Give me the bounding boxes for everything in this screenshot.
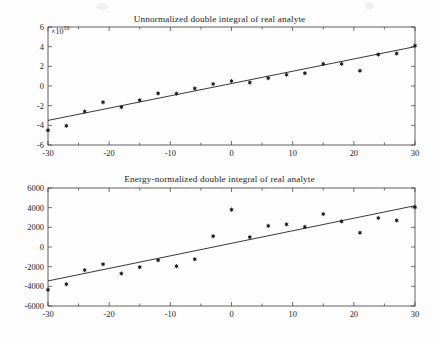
y-tick-label: 6 [40,23,44,32]
y-tick-label: 0 [40,243,44,252]
chart-energy-normalized: Energy-normalized double integral of rea… [0,170,439,342]
x-tick-label: -20 [104,149,115,158]
data-point [395,218,399,222]
x-tick-label: -30 [42,310,53,319]
data-point [193,257,197,261]
data-point [65,282,69,286]
data-point [120,271,124,275]
y-tick-label: -2000 [24,263,44,272]
data-point [248,235,252,239]
data-point [395,51,399,55]
y-tick-label: 2 [40,62,44,71]
y-tick-label: 2000 [27,223,44,232]
x-tick-label: -10 [165,310,176,319]
plot-area-top: 6420-2-4-6-30-20-100102030 [0,6,439,170]
data-point [340,62,344,66]
y-tick-label: 6000 [27,184,44,193]
data-point [376,52,380,56]
data-point [211,234,215,238]
data-point [376,216,380,220]
y-tick-label: -6000 [24,302,44,311]
plot-area-bottom: 6000400020000-2000-4000-6000-30-20-10010… [0,170,439,342]
data-point [285,222,289,226]
data-point [303,71,307,75]
y-tick-label: 4000 [27,204,44,213]
data-point [101,100,105,104]
y-tick-label: 4 [40,43,45,52]
x-tick-label: 20 [350,149,358,158]
data-point [46,128,50,132]
data-point [248,80,252,84]
data-point [83,268,87,272]
fit-line [48,47,415,121]
chart-unnormalized: Unnormalized double integral of real ana… [0,6,439,170]
x-tick-label: -20 [104,310,115,319]
data-point [175,264,179,268]
data-point [46,288,50,292]
data-point [230,79,234,83]
x-tick-label: -10 [165,149,176,158]
data-point [340,219,344,223]
x-tick-label: 0 [229,310,233,319]
data-point [358,69,362,73]
y-tick-label: -4 [37,121,45,130]
data-point [230,208,234,212]
x-tick-label: 30 [411,310,419,319]
data-point [211,82,215,86]
data-point [101,262,105,266]
data-point [321,212,325,216]
x-tick-label: -30 [42,149,53,158]
y-tick-label: 0 [40,82,44,91]
data-point [266,224,270,228]
y-tick-label: -4000 [24,282,44,291]
x-tick-label: 10 [288,310,296,319]
data-point [65,124,69,128]
x-tick-label: 0 [229,149,233,158]
x-tick-label: 30 [411,149,419,158]
fit-line [48,206,415,281]
y-tick-label: -2 [37,102,44,111]
x-tick-label: 20 [350,310,358,319]
data-point [138,265,142,269]
data-point [193,86,197,90]
data-point [156,91,160,95]
x-tick-label: 10 [288,149,296,158]
data-point [285,73,289,77]
data-point [358,231,362,235]
figure-page: Unnormalized double integral of real ana… [0,0,439,345]
